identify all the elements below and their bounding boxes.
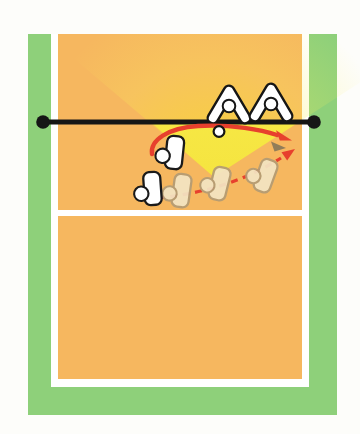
volleyball-drill-diagram [0,0,360,434]
blocker-right-icon [255,89,287,116]
attacker-ghost-3-icon [242,154,279,194]
net-post-right [307,115,321,129]
blocker-left-icon [213,91,245,118]
attacker-icon [133,171,162,206]
diagram-overlay [0,0,360,434]
net-post-left [36,115,50,129]
attacker-ghost-1-icon [161,172,193,208]
ball-icon [214,126,225,137]
attacker-ghost-2-icon [197,163,231,202]
